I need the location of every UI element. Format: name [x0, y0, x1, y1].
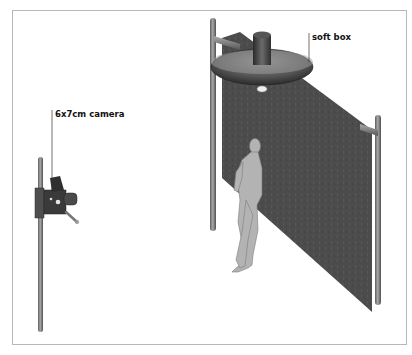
camera-button: [50, 198, 53, 201]
camera-handle: [66, 212, 77, 222]
studio-diagram: soft box 6x7cm camera: [0, 0, 412, 355]
camera-stand-pole: [38, 157, 43, 332]
camera-label: 6x7cm camera: [55, 109, 125, 119]
camera-knob: [56, 200, 61, 205]
softbox-cylinder-top: [253, 32, 271, 39]
figure-head: [250, 139, 261, 154]
camera-lens: [64, 193, 77, 205]
light-bulb: [257, 86, 267, 92]
camera-body: [44, 190, 66, 214]
softbox-cylinder: [253, 35, 271, 65]
camera-handle-knob: [75, 220, 79, 224]
camera-stand: [35, 157, 44, 332]
right-pole: [375, 115, 381, 305]
camera-6x7: [44, 176, 79, 224]
camera-stand-clamp: [35, 188, 44, 218]
left-pole: [210, 18, 216, 231]
softbox-label: soft box: [312, 32, 352, 42]
